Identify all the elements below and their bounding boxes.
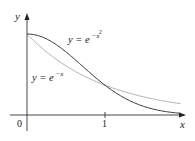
annotation-gaussian: y = e −x 2 <box>67 29 102 45</box>
annotation-gaussian-power: 2 <box>99 29 102 35</box>
annotation-exponential-base: y = e <box>31 72 54 83</box>
y-axis-arrow-icon <box>25 13 30 20</box>
y-axis-label: y <box>14 10 20 22</box>
annotation-gaussian-base: y = e <box>67 34 90 45</box>
annotation-exponential: y = e −x <box>31 70 64 84</box>
annotation-exponential-exponent: −x <box>56 70 65 78</box>
tick-label-1: 1 <box>102 118 107 129</box>
chart: y x 0 1 y = e −x 2 y = e −x <box>0 0 195 141</box>
origin-label: 0 <box>17 118 22 129</box>
x-axis-label: x <box>179 118 185 130</box>
curve-e-neg-x <box>27 34 181 104</box>
